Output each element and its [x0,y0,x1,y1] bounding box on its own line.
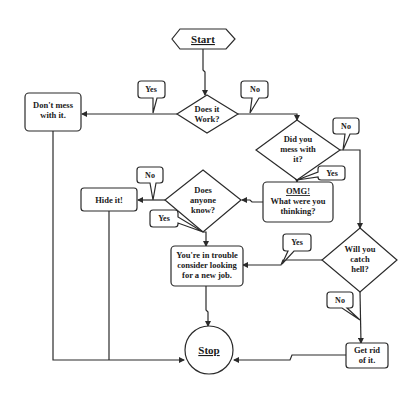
callout-text: No [335,296,345,305]
callout-hell-no: No [327,292,360,320]
decision-does-it-work: Does it Work? [177,95,238,133]
connector-getrid-to-stop [234,355,346,360]
process-text: What were you [270,196,325,206]
process-get-rid: Get rid of it. [346,343,388,368]
callout-text: Yes [291,238,303,247]
connector-know-yes [203,232,206,246]
decision-text: anyone [190,195,216,205]
decision-text: hell? [351,264,368,274]
process-text: You're in trouble [176,250,238,260]
callout-work-no: No [241,81,268,113]
start-node: Start [172,29,235,49]
process-text: of it. [359,355,376,365]
callout-text: No [145,171,155,180]
process-text: Hide it! [95,195,123,205]
process-text: for a new job. [182,270,232,280]
process-text: Get rid [354,345,380,355]
process-text: Don't mess [33,100,74,110]
connector-dontmess-to-stop [53,131,184,360]
process-text: with it. [40,110,66,120]
callout-know-no: No [137,167,163,200]
process-omg: OMG! What were you thinking? [263,182,333,222]
callout-mess-no: No [333,118,359,150]
callout-work-yes: Yes [138,81,165,113]
callout-text: Yes [158,214,170,223]
callout-text: No [250,85,260,94]
process-in-trouble: You're in trouble consider looking for a… [171,246,243,286]
process-text: OMG! [286,186,310,196]
connector-start-to-work [203,49,205,95]
decision-text: Will you [345,244,376,254]
decision-text: Did you [284,134,313,144]
stop-node: Stop [185,326,233,374]
process-dont-mess: Don't mess with it. [25,93,81,131]
process-text: thinking? [281,206,316,216]
connector-hell-no [360,292,361,343]
callout-text: Yes [326,169,338,178]
connector-omg-to-know [242,200,263,202]
stop-label: Stop [198,344,219,356]
decision-text: mess with [280,144,316,154]
decision-text: know? [191,205,215,215]
connector-trouble-to-stop [206,286,208,326]
start-label: Start [191,33,215,45]
connector-work-no [238,114,297,120]
connector-mess-no [340,150,360,228]
callout-text: Yes [145,85,157,94]
decision-text: it? [293,154,302,164]
callout-text: No [341,122,351,131]
process-text: consider looking [177,260,237,270]
decision-catch-hell: Will you catch hell? [322,228,397,292]
decision-text: catch [350,254,370,264]
process-hide-it: Hide it! [81,188,137,211]
flowchart: Start Does it Work? Did you mess with it… [0,0,420,404]
decision-text: Work? [194,114,219,124]
decision-text: Does it [195,104,220,114]
decision-text: Does [194,185,212,195]
